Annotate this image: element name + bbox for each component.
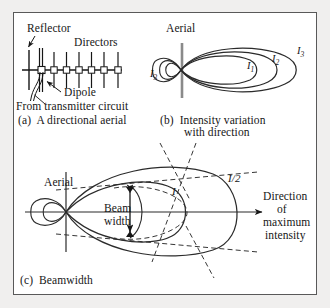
caption-panel-c: (c) Beamwidth [20, 274, 93, 287]
label-dipole: Dipole [64, 86, 96, 99]
panel-b-back-lobe-inner [166, 63, 181, 76]
label-directors: Directors [74, 36, 118, 49]
label-direction-line2: of [277, 203, 287, 216]
label-reflector: Reflector [27, 22, 71, 35]
label-aerial-panel-b: Aerial [166, 22, 195, 35]
caption-panel-b-line1: (b) Intensity variation [160, 114, 266, 127]
figure-root: Reflector Directors Dipole From transmit… [0, 0, 330, 308]
label-direction-line3: maximum [263, 216, 310, 229]
label-from-transmitter-circuit: From transmitter circuit [16, 100, 128, 113]
label-aerial-panel-c: Aerial [44, 176, 73, 189]
caption-panel-a: (a) A directional aerial [18, 114, 127, 127]
beamwidth-arrowhead-bottom [126, 231, 134, 237]
half-power-ray-lower [56, 234, 258, 252]
label-lobe-i2: I2 [272, 53, 279, 67]
label-lobe-i1: I1 [247, 60, 254, 74]
label-intensity-half: I/2 [228, 172, 241, 184]
label-lobe-i3: I3 [297, 45, 304, 59]
label-beam-width-line1: Beam [104, 202, 131, 215]
label-direction-line4: intensity [265, 229, 306, 242]
label-beam-width-line2: width [104, 215, 131, 228]
panel-b-pattern [153, 43, 297, 98]
caption-panel-b-line2: with direction [184, 126, 250, 139]
figure-drawing [0, 0, 330, 308]
half-power-cross-line-c [186, 226, 214, 278]
panel-c-beamwidth [25, 143, 262, 278]
label-back-lobe-i3: I3 [150, 68, 157, 82]
label-intensity-full: I [172, 185, 176, 197]
label-direction-line1: Direction [263, 190, 307, 203]
reflector-leader [29, 36, 36, 47]
antenna-dipole-gap [38, 67, 45, 74]
beamwidth-arrowhead-top [126, 187, 134, 193]
